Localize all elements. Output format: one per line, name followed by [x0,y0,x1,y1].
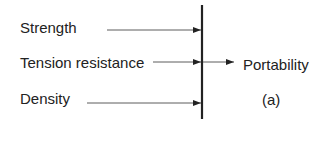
figure-caption: (a) [262,92,280,108]
input-label-tension-resistance: Tension resistance [20,55,144,71]
input-label-density: Density [20,91,70,107]
output-label-portability: Portability [243,57,309,73]
input-label-strength: Strength [20,20,77,36]
